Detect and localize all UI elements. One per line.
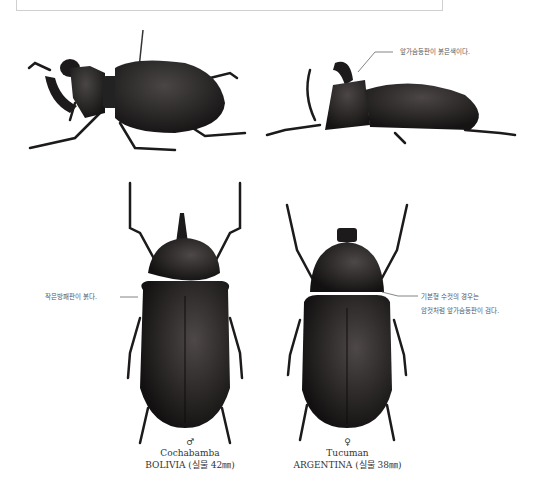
top-text-frame bbox=[16, 0, 443, 11]
country-size-female: ARGENTINA (실물 38㎜) bbox=[275, 459, 420, 471]
annotation-female-pronotum-line1: 기본형 수컷의 경우는 bbox=[421, 292, 479, 303]
caption-male: ♂ Cochabamba BOLIVIA (실물 42㎜) bbox=[120, 437, 260, 471]
pointer-line-female bbox=[380, 290, 420, 300]
beetle-side-view-image bbox=[265, 55, 525, 145]
annotation-male-scutellum: 작은방패판이 붉다. bbox=[45, 292, 97, 303]
beetle-female-top-view-image bbox=[282, 200, 412, 445]
country-size-male: BOLIVIA (실물 42㎜) bbox=[120, 459, 260, 471]
beetle-oblique-view-image bbox=[15, 28, 255, 158]
female-symbol: ♀ bbox=[275, 437, 420, 447]
caption-female: ♀ Tucuman ARGENTINA (실물 38㎜) bbox=[275, 437, 420, 471]
male-symbol: ♂ bbox=[120, 437, 260, 447]
pointer-line-male bbox=[120, 296, 140, 300]
annotation-female-pronotum-line2: 암컷처럼 앞가슴등판이 검다. bbox=[421, 306, 499, 317]
pointer-line-side bbox=[355, 50, 395, 75]
annotation-side-view: 앞가슴등판이 붉은색이다. bbox=[400, 47, 470, 58]
locality-female: Tucuman bbox=[275, 447, 420, 459]
beetle-male-top-view-image bbox=[118, 178, 253, 448]
locality-male: Cochabamba bbox=[120, 447, 260, 459]
